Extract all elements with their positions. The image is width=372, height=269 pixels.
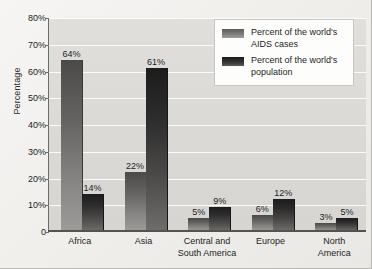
- bar[interactable]: 22%: [125, 172, 147, 231]
- y-axis-tick-label: 40%: [8, 120, 46, 130]
- y-axis-tick-label: 70%: [8, 40, 46, 50]
- y-axis-tick-label: 10%: [8, 200, 46, 210]
- x-axis-tick-label: Europe: [239, 236, 303, 248]
- bar[interactable]: 12%: [273, 199, 295, 231]
- legend-swatch-population: [222, 57, 244, 66]
- y-axis-tick-label: 30%: [8, 147, 46, 157]
- bar-chart-figure: Percentage 010%20%30%40%50%60%70%80% 64%…: [0, 0, 372, 269]
- bar-value-label: 5%: [192, 207, 205, 217]
- bar-value-label: 64%: [62, 49, 80, 59]
- y-axis-tickmark: [45, 232, 49, 233]
- legend-item-aids-cases: Percent of the world's AIDS cases: [222, 27, 347, 50]
- bar-value-label: 6%: [256, 204, 269, 214]
- legend-item-population: Percent of the world's population: [222, 55, 347, 78]
- bar-value-label: 61%: [147, 57, 165, 67]
- bar-value-label: 9%: [213, 196, 226, 206]
- y-axis-tick-label: 20%: [8, 174, 46, 184]
- x-axis-tick-labels: AfricaAsiaCentral andSouth AmericaEurope…: [48, 236, 366, 268]
- chart-legend: Percent of the world's AIDS cases Percen…: [214, 19, 354, 86]
- bar-value-label: 22%: [126, 161, 144, 171]
- bar[interactable]: 64%: [61, 60, 83, 231]
- bar[interactable]: 61%: [146, 68, 168, 231]
- bar-group: 64%14%: [49, 18, 113, 231]
- bar[interactable]: 5%: [336, 218, 358, 231]
- y-axis-tick-label: 0: [8, 227, 46, 237]
- y-axis-tick-label: 80%: [8, 13, 46, 23]
- bar[interactable]: 6%: [252, 215, 274, 231]
- x-axis-tick-label: Africa: [48, 236, 112, 248]
- bar-value-label: 14%: [83, 183, 101, 193]
- x-axis-tick-label: Central andSouth America: [175, 236, 239, 259]
- bar-group: 22%61%: [113, 18, 177, 231]
- bar-value-label: 3%: [319, 212, 332, 222]
- legend-swatch-aids-cases: [222, 29, 244, 38]
- y-axis-tick-label: 50%: [8, 93, 46, 103]
- bar-value-label: 5%: [340, 207, 353, 217]
- y-axis-tick-label: 60%: [8, 67, 46, 77]
- bar[interactable]: 3%: [315, 223, 337, 231]
- legend-label-aids-cases: Percent of the world's AIDS cases: [251, 27, 347, 50]
- bar[interactable]: 14%: [82, 194, 104, 231]
- y-axis-tick-labels: 010%20%30%40%50%60%70%80%: [8, 12, 46, 237]
- bar[interactable]: 5%: [188, 218, 210, 231]
- x-axis-tick-label: Asia: [112, 236, 176, 248]
- x-axis-tick-label: NorthAmerica: [302, 236, 366, 259]
- bar[interactable]: 9%: [209, 207, 231, 231]
- legend-label-population: Percent of the world's population: [251, 55, 347, 78]
- bar-value-label: 12%: [274, 188, 292, 198]
